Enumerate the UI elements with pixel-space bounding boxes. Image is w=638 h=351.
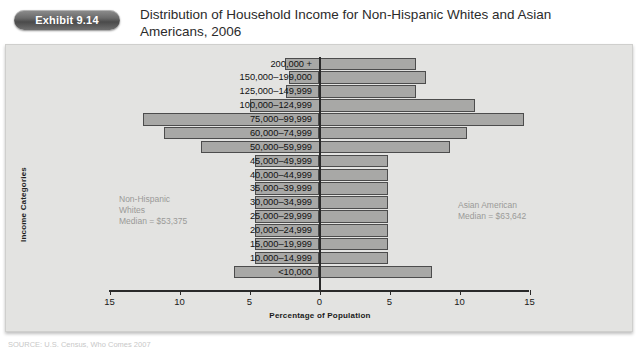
x-tick-label: 5 [375,296,405,307]
bar-asian-american [320,58,417,71]
category-label: 30,000–34,999 [250,195,316,209]
category-label: 10,000–14,999 [250,251,316,265]
annotation-asian-american: Asian American Median = $63,642 [458,200,526,222]
category-label: 125,000–149,999 [240,84,316,98]
exhibit-figure: Exhibit 9.14 Distribution of Household I… [0,0,638,351]
bar-asian-american [320,169,389,182]
x-tick [530,290,531,295]
x-tick-label: 15 [515,296,545,307]
bar-asian-american [320,99,475,112]
category-label: 75,000–99,999 [250,112,316,126]
category-label: 15,000–19,999 [250,237,316,251]
bar-asian-american [320,266,432,279]
category-label: 25,000–29,999 [250,209,316,223]
bar-asian-american [320,113,524,126]
x-axis-label: Percentage of Population [6,311,633,320]
exhibit-badge: Exhibit 9.14 [14,10,120,30]
zero-axis-line [319,57,321,291]
bar-asian-american [320,127,467,140]
bar-asian-american [320,141,450,154]
category-label: 20,000–24,999 [250,223,316,237]
bar-asian-american [320,71,426,84]
bar-asian-american [320,155,389,168]
chart-panel: Income Categories 200,000 +150,000–199,0… [5,44,633,332]
bar-asian-american [320,85,417,98]
bar-asian-american [320,238,389,251]
x-tick-label: 10 [165,296,195,307]
annotation-non-hispanic-whites: Non-Hispanic Whites Median = $53,375 [119,194,187,227]
category-label: 200,000 + [270,57,316,71]
category-label: 150,000–199,000 [240,70,316,84]
x-tick-label: 10 [445,296,475,307]
bar-asian-american [320,210,389,223]
category-label: 35,000–39,999 [250,181,316,195]
x-tick-label: 15 [95,296,125,307]
category-label: 50,000–59,999 [250,140,316,154]
x-tick-label: 0 [305,296,335,307]
category-label: 45,000–49,999 [250,154,316,168]
category-label: 40,000–44,999 [250,168,316,182]
bar-asian-american [320,196,389,209]
category-label: 60,000–74,999 [250,126,316,140]
page-title: Distribution of Household Income for Non… [140,6,610,40]
category-label: 100,000–124,999 [240,98,316,112]
x-tick-label: 5 [235,296,265,307]
bar-asian-american [320,224,389,237]
bar-asian-american [320,252,389,265]
category-label: <10,000 [278,265,316,279]
figure-header: Exhibit 9.14 Distribution of Household I… [0,0,638,48]
source-note: SOURCE: U.S. Census, Who Comes 2007 [8,340,408,349]
population-pyramid-chart: Income Categories 200,000 +150,000–199,0… [6,45,633,332]
bar-asian-american [320,182,389,195]
